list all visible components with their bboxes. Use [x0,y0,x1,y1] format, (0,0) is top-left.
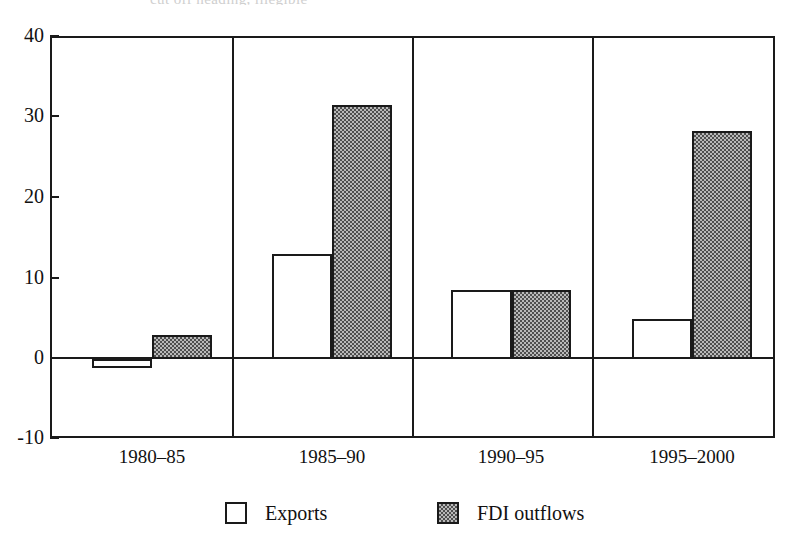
x-tick-label-1990-95: 1990–95 [441,446,581,468]
legend-label-exports: Exports [265,502,327,524]
y-tick-mark-10 [50,277,59,279]
x-tick-label-1995-2000: 1995–2000 [622,446,762,468]
bar-exports-1980-85 [92,359,152,368]
y-tick-label-20: 20 [0,186,44,206]
chart-legend: Exports FDI outflows [0,498,804,538]
legend-swatch-exports-icon [225,502,247,524]
bar-exports-1995-2000 [632,319,692,359]
category-separator-2 [412,36,414,438]
category-separator-3 [592,36,594,438]
legend-swatch-fdi-outflows-icon [437,502,459,524]
legend-label-fdi-outflows: FDI outflows [477,502,584,524]
y-tick-mark-30 [50,115,59,117]
y-tick-mark-0 [50,357,59,359]
y-tick-label-30: 30 [0,105,44,125]
category-separator-1 [232,36,234,438]
x-tick-label-1985-90: 1985–90 [262,446,402,468]
bar-fdi-1980-85 [152,335,212,359]
bar-exports-1985-90 [272,254,332,359]
bar-chart: 40 30 20 10 0 -10 1980–85 1985–90 1990–9… [0,0,804,556]
y-tick-label-10: 10 [0,267,44,287]
legend-item-exports: Exports [225,502,327,524]
y-tick-label-minus10: -10 [0,427,44,447]
bar-fdi-1995-2000 [692,131,752,359]
x-tick-label-1980-85: 1980–85 [82,446,222,468]
y-tick-label-40: 40 [0,25,44,45]
bar-exports-1990-95 [451,290,512,359]
y-tick-mark-minus10 [50,437,59,439]
bar-fdi-1990-95 [512,290,571,359]
bar-fdi-1985-90 [332,105,392,359]
y-tick-mark-40 [50,35,59,37]
legend-item-fdi-outflows: FDI outflows [437,502,584,524]
y-tick-label-0: 0 [0,347,44,367]
y-tick-mark-20 [50,196,59,198]
